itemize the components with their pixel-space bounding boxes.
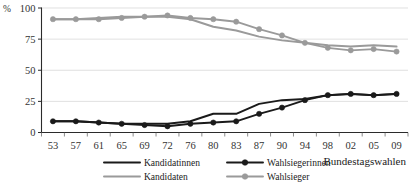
data-point <box>96 17 101 22</box>
y-tick-label: 100 <box>20 3 36 14</box>
data-point <box>119 15 124 20</box>
data-point <box>211 17 216 22</box>
legend-label: Kandidaten <box>144 172 188 182</box>
y-axis-unit-label: % <box>3 4 11 14</box>
data-point <box>325 93 330 98</box>
data-point <box>188 15 193 20</box>
legend-label: Wahlsieger <box>267 172 310 182</box>
data-point <box>73 119 78 124</box>
data-point <box>165 124 170 129</box>
x-tick-label: 87 <box>254 140 265 151</box>
x-tick-label: 09 <box>391 140 402 151</box>
x-tick-label: 69 <box>139 140 150 151</box>
data-point <box>279 33 284 38</box>
y-tick-label: 75 <box>25 34 36 45</box>
data-point <box>142 122 147 127</box>
data-point <box>165 13 170 18</box>
legend-label: Kandidatinnen <box>144 158 200 168</box>
data-point <box>234 19 239 24</box>
x-axis-title-text: Bundestagswahlen <box>324 155 407 167</box>
data-point <box>371 93 376 98</box>
data-point <box>371 46 376 51</box>
data-point <box>257 111 262 116</box>
data-point <box>279 105 284 110</box>
line-chart: 1007550250 53576165697276808387909498020… <box>0 0 413 186</box>
data-point <box>211 120 216 125</box>
data-point <box>119 121 124 126</box>
x-tick-label: 72 <box>162 140 173 151</box>
x-tick-label: 02 <box>345 140 356 151</box>
y-tick-label: 0 <box>30 127 35 138</box>
x-tick-label: 61 <box>94 140 105 151</box>
data-point <box>257 27 262 32</box>
x-tick-label: 53 <box>48 140 59 151</box>
x-tick-label: 05 <box>368 140 379 151</box>
x-tick-label: 83 <box>231 140 242 151</box>
data-point <box>234 119 239 124</box>
x-tick-label: 98 <box>323 140 334 151</box>
y-tick-label: 50 <box>25 65 36 76</box>
data-point <box>325 45 330 50</box>
data-point <box>348 91 353 96</box>
x-tick-label: 65 <box>116 140 127 151</box>
data-point <box>348 48 353 53</box>
x-tick-label: 57 <box>71 140 82 151</box>
x-tick-label: 90 <box>277 140 288 151</box>
data-point <box>302 40 307 45</box>
data-point <box>302 98 307 103</box>
x-axis-title: Bundestagswahlen <box>324 155 407 167</box>
x-tick-label: 76 <box>185 140 196 151</box>
y-axis-unit: % <box>3 4 11 14</box>
data-point <box>394 49 399 54</box>
data-point <box>394 91 399 96</box>
chart-container: 1007550250 53576165697276808387909498020… <box>0 0 413 186</box>
x-tick-label: 80 <box>208 140 219 151</box>
data-point <box>96 120 101 125</box>
legend-label: Wahlsiegerinnen <box>267 158 331 168</box>
legend-swatch-marker <box>242 174 248 180</box>
data-point <box>188 121 193 126</box>
data-point <box>73 17 78 22</box>
legend-swatch-marker <box>242 160 248 166</box>
x-tick-label: 94 <box>300 140 311 151</box>
data-point <box>50 119 55 124</box>
data-point <box>50 17 55 22</box>
y-tick-label: 25 <box>25 96 36 107</box>
data-point <box>142 14 147 19</box>
